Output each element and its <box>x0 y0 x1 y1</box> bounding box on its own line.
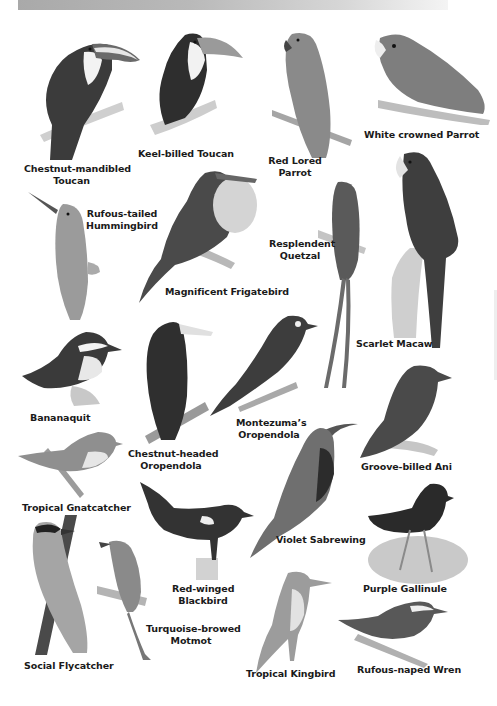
label-turquoise-browed-motmot: Turquoise-browed Motmot <box>146 623 236 647</box>
label-magnificent-frigatebird: Magnificent Frigatebird <box>165 286 275 298</box>
label-rufous-tailed-hummingbird: Rufous-tailed Hummingbird <box>86 208 158 232</box>
label-bananaquit: Bananaquit <box>30 412 90 424</box>
label-purple-gallinule: Purple Gallinule <box>363 583 443 595</box>
label-groove-billed-ani: Groove-billed Ani <box>361 461 447 473</box>
rufous-naped-wren-illustration <box>338 598 448 668</box>
chestnut-mandibled-toucan-illustration <box>22 30 142 160</box>
tropical-kingbird-illustration <box>248 565 333 675</box>
white-crowned-parrot-illustration <box>358 30 493 125</box>
label-keel-billed-toucan: Keel-billed Toucan <box>138 148 230 160</box>
chestnut-headed-oropendola-illustration <box>135 318 215 448</box>
purple-gallinule-illustration <box>360 480 472 585</box>
label-red-lored-parrot: Red Lored Parrot <box>266 155 324 179</box>
label-social-flycatcher: Social Flycatcher <box>24 660 110 672</box>
montezumas-oropendola-illustration <box>208 312 318 417</box>
social-flycatcher-illustration <box>25 515 95 655</box>
label-rufous-naped-wren: Rufous-naped Wren <box>357 664 449 676</box>
tropical-gnatcatcher-illustration <box>18 428 123 498</box>
label-scarlet-macaw: Scarlet Macaw <box>356 338 431 350</box>
label-tropical-kingbird: Tropical Kingbird <box>246 668 332 680</box>
label-violet-sabrewing: Violet Sabrewing <box>276 534 360 546</box>
label-chestnut-headed-oropendola: Chestnut-headed Oropendola <box>128 448 214 472</box>
label-white-crowned-parrot: White crowned Parrot <box>364 129 474 141</box>
label-montezumas-oropendola: Montezuma’s Oropendola <box>236 417 302 441</box>
label-tropical-gnatcatcher: Tropical Gnatcatcher <box>22 502 122 514</box>
bananaquit-illustration <box>22 326 122 406</box>
magnificent-frigatebird-illustration <box>135 165 260 305</box>
keel-billed-toucan-illustration <box>145 30 245 140</box>
label-resplendent-quetzal: Resplendent Quetzal <box>269 238 331 262</box>
resplendent-quetzal-illustration <box>318 180 368 390</box>
header-gradient-bar <box>18 0 448 10</box>
label-chestnut-mandibled-toucan: Chestnut-mandibled Toucan <box>24 163 119 187</box>
label-red-winged-blackbird: Red-winged Blackbird <box>172 583 234 607</box>
red-lored-parrot-illustration <box>272 30 357 160</box>
groove-billed-ani-illustration <box>358 360 453 460</box>
scarlet-macaw-illustration <box>388 148 463 348</box>
